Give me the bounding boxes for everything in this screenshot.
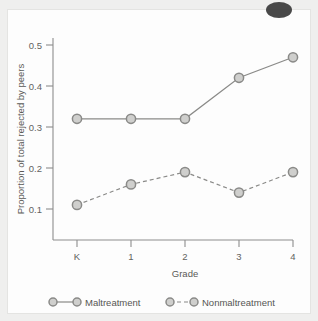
y-tick-label: 0.3 — [29, 122, 42, 133]
series-line-maltreatment — [77, 57, 293, 119]
series-markers-maltreatment — [72, 53, 297, 124]
x-tick-label: 2 — [182, 251, 187, 262]
data-point — [72, 114, 81, 123]
legend-swatch-marker — [166, 298, 174, 306]
x-tick-label: 3 — [236, 251, 241, 262]
data-point — [72, 200, 81, 209]
data-point — [180, 114, 189, 123]
series-markers-nonmaltreatment — [72, 168, 297, 210]
data-point — [126, 114, 135, 123]
y-axis-title: Proportion of total rejected by peers — [15, 64, 26, 215]
chart-svg: 0.5 0.4 0.3 0.2 0.1 K 1 2 3 4 Grade P — [8, 10, 310, 313]
y-tick-label: 0.5 — [29, 40, 42, 51]
y-tick-label: 0.1 — [29, 204, 42, 215]
x-tick-label: 4 — [290, 251, 295, 262]
data-point — [234, 73, 243, 82]
legend-swatch-marker — [49, 298, 57, 306]
data-point — [126, 180, 135, 189]
legend-label-nonmaltreatment: Nonmaltreatment — [202, 297, 275, 308]
x-tick-label: K — [74, 251, 81, 262]
legend-label-maltreatment: Maltreatment — [85, 297, 141, 308]
figure-panel: 0.5 0.4 0.3 0.2 0.1 K 1 2 3 4 Grade P — [8, 10, 310, 313]
data-point — [288, 53, 297, 62]
x-axis-title: Grade — [172, 268, 198, 279]
data-point — [180, 168, 189, 177]
line-chart: 0.5 0.4 0.3 0.2 0.1 K 1 2 3 4 Grade P — [8, 10, 310, 313]
y-tick-label: 0.4 — [29, 81, 42, 92]
legend-swatch-marker — [190, 298, 198, 306]
legend-swatch-marker — [73, 298, 81, 306]
y-tick-label: 0.2 — [29, 163, 42, 174]
x-tick-label: 1 — [128, 251, 133, 262]
data-point — [288, 168, 297, 177]
page-background: 0.5 0.4 0.3 0.2 0.1 K 1 2 3 4 Grade P — [0, 0, 318, 321]
chart-legend: Maltreatment Nonmaltreatment — [49, 297, 275, 308]
data-point — [234, 188, 243, 197]
